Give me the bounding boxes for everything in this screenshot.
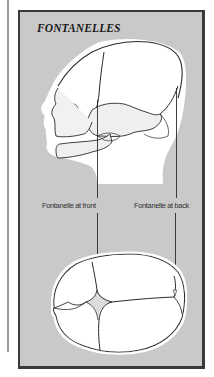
skull-top-outline	[53, 254, 184, 352]
skull-illustration	[0, 0, 214, 377]
skull-side-view	[42, 40, 185, 183]
skull-top-view	[53, 254, 184, 352]
